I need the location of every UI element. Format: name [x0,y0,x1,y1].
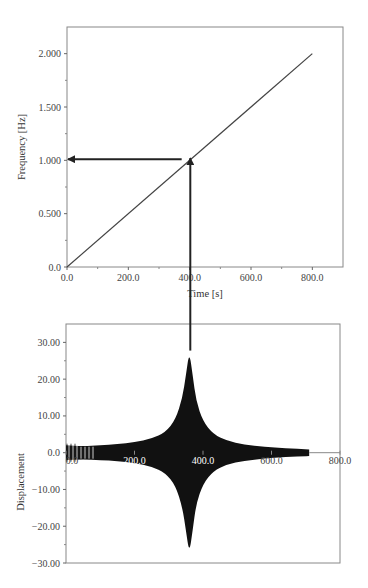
y-tick-label: 0.500 [39,208,62,219]
y-tick-label: 0.0 [49,262,62,273]
frequency-chart: 0.00.5001.0001.5002.000 0.0200.0400.0600… [16,27,343,299]
y-tick-label: 1.500 [39,102,62,113]
displacement-y-ticks: −30.00−20.00−10.000.010.0020.0030.00 [32,337,66,569]
frequency-y-ticks: 0.00.5001.0001.5002.000 [39,48,68,272]
x-tick-label: 600.0 [260,455,283,466]
x-tick-label: 800.0 [329,455,352,466]
displacement-axis-title: Displacement [15,453,26,511]
y-tick-label: −10.00 [32,484,60,495]
x-tick-label: 800.0 [301,272,324,283]
time-axis-title: Time [s] [187,288,223,299]
time-x-ticks: 0.0200.0400.0600.0800.0 [61,267,324,283]
displacement-envelope [66,358,309,548]
y-tick-label: −30.00 [32,558,60,569]
y-tick-label: 10.00 [38,410,61,421]
x-tick-label: 400.0 [192,455,215,466]
x-tick-label: 0.0 [61,272,74,283]
x-tick-label: 200.0 [123,455,146,466]
displacement-chart: −30.00−20.00−10.000.010.0020.0030.00 0.0… [15,324,351,569]
x-tick-label: 0.0 [66,455,79,466]
frequency-axis-title: Frequency [Hz] [16,114,27,180]
y-tick-label: 30.00 [38,337,61,348]
y-tick-label: 2.000 [39,48,62,59]
y-tick-label: 1.000 [39,155,62,166]
x-tick-label: 600.0 [240,272,263,283]
y-tick-label: −20.00 [32,521,60,532]
figure: 0.00.5001.0001.5002.000 0.0200.0400.0600… [0,0,368,588]
x-tick-label: 200.0 [117,272,140,283]
y-tick-label: 0.0 [48,447,61,458]
y-tick-label: 20.00 [38,374,61,385]
